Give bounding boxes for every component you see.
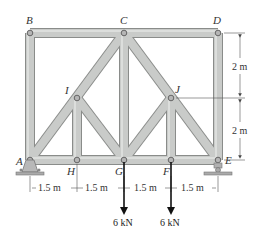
dim-hg: 1.5 m — [85, 182, 108, 193]
label-d: D — [212, 14, 221, 26]
member-jg — [124, 98, 171, 160]
label-h: H — [66, 165, 76, 177]
label-b: B — [26, 14, 33, 26]
dim-gf: 1.5 m — [134, 182, 157, 193]
pin-i — [74, 95, 80, 101]
vertical-dimensions — [176, 33, 245, 160]
pin-e — [215, 157, 221, 163]
label-a: A — [15, 155, 23, 167]
load-label-f: 6 kN — [160, 217, 180, 228]
label-j: J — [175, 83, 181, 95]
dim-je: 2 m — [232, 125, 248, 136]
label-c: C — [120, 14, 128, 26]
label-g: G — [115, 165, 123, 177]
label-f: F — [162, 165, 170, 177]
dim-fe: 1.5 m — [181, 182, 204, 193]
label-i: I — [64, 84, 70, 96]
pin-j — [168, 95, 174, 101]
dim-ah: 1.5 m — [38, 182, 61, 193]
truss-diagram: B C D I J A H G F E 2 m 2 m 1.5 m 1.5 m … — [0, 0, 264, 238]
arrowhead-g-icon — [120, 207, 128, 215]
pin-f — [168, 157, 174, 163]
arrowhead-f-icon — [167, 207, 175, 215]
pin-h — [74, 157, 80, 163]
pin-d — [215, 30, 221, 36]
pin-c — [121, 30, 127, 36]
load-label-g: 6 kN — [113, 217, 133, 228]
pin-b — [27, 30, 33, 36]
member-ig — [77, 98, 124, 160]
pin-g — [121, 157, 127, 163]
members — [28, 31, 218, 160]
dim-dj: 2 m — [232, 61, 248, 72]
